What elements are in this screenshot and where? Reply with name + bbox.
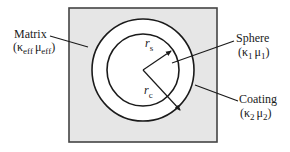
coating-properties: (κ2μ2) (240, 106, 271, 122)
matrix-label: Matrix (14, 27, 47, 41)
coating-label: Coating (239, 92, 277, 106)
sphere-label: Sphere (236, 31, 269, 45)
sphere-properties: (κ1μ1) (238, 45, 269, 61)
matrix-properties: (κeffμeff) (13, 40, 55, 56)
coated-sphere-diagram: rs rc Matrix (κeffμeff) Sphere (κ1μ1) Co… (0, 0, 290, 152)
